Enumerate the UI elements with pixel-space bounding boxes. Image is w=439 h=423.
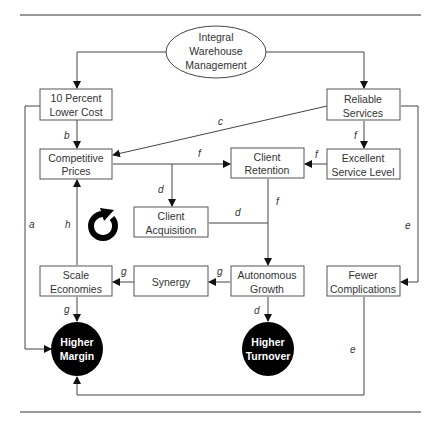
margin-line-1: Higher [60, 336, 93, 348]
turnover-line-2: Turnover [246, 350, 291, 362]
scale-line-2: Economies [50, 283, 102, 295]
label-f-excellent: f [315, 149, 319, 160]
label-d-acq: d [158, 184, 164, 195]
reliable-line-1: Reliable [344, 93, 382, 105]
label-f-competitive: f [198, 148, 202, 159]
label-e-margin: e [350, 344, 356, 355]
synergy-line-1: Synergy [152, 276, 191, 288]
retention-line-1: Client [254, 151, 281, 163]
root-node: Integral Warehouse Management [166, 26, 266, 78]
competitive-line-1: Competitive [48, 152, 104, 164]
fewer-line-1: Fewer [348, 269, 378, 281]
diagram-canvas: Integral Warehouse Management 10 Percent… [0, 0, 439, 423]
reliable-line-2: Services [343, 107, 383, 119]
label-e-fewer: e [405, 220, 411, 231]
scale-line-1: Scale [63, 269, 89, 281]
acquisition-line-1: Client [158, 210, 185, 222]
edge-e-reliable-fewer [401, 106, 418, 282]
turnover-line-1: Higher [251, 336, 284, 348]
edge-e-fewer-margin [77, 297, 364, 395]
label-f-reliable: f [354, 130, 358, 141]
label-d-turnover: d [254, 305, 260, 316]
label-g-margin: g [64, 304, 70, 315]
outcome-higher-turnover: Higher Turnover [242, 322, 294, 376]
edge-root-lowercost [77, 52, 166, 88]
root-line-2: Warehouse [189, 45, 242, 57]
fewer-line-2: Complications [330, 283, 396, 295]
growth-line-1: Autonomous [238, 269, 297, 281]
lower-cost-line-2: Lower Cost [49, 106, 102, 118]
label-g-growth: g [217, 266, 223, 277]
edge-root-reliable [266, 52, 364, 88]
excellent-line-2: Service Level [331, 166, 394, 178]
label-f-retention: f [276, 196, 280, 207]
root-line-1: Integral [198, 31, 233, 43]
margin-line-2: Margin [60, 350, 94, 362]
label-b: b [64, 130, 70, 141]
label-d-acq-growth: d [235, 207, 241, 218]
excellent-line-1: Excellent [342, 152, 385, 164]
label-h: h [65, 219, 71, 230]
label-c: c [218, 116, 223, 127]
growth-line-2: Growth [250, 283, 284, 295]
outcome-higher-margin: Higher Margin [51, 322, 103, 376]
root-line-3: Management [185, 59, 246, 71]
label-a: a [29, 219, 35, 230]
lower-cost-line-1: 10 Percent [51, 92, 102, 104]
label-g-synergy: g [121, 266, 127, 277]
competitive-line-2: Prices [61, 165, 90, 177]
retention-line-2: Retention [245, 164, 290, 176]
circular-arrow-icon [91, 208, 115, 238]
acquisition-line-2: Acquisition [146, 224, 197, 236]
